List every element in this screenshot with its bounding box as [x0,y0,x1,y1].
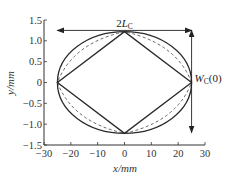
x-tick-label: 20 [173,148,184,159]
y-tick-label: −0.5 [23,98,42,109]
x-tick-label: −20 [63,148,79,159]
x-tick-label: 0 [122,148,127,159]
y-axis-label: y/mm [4,71,16,96]
y-tick-label: −1.5 [23,140,42,151]
annotation-wc0: WC(0) [195,72,222,86]
y-tick-label: 0 [37,77,42,88]
x-axis-label: x/mm [112,162,137,174]
chart: −30−20−1001020301.51.00.50−0.5−1.0−1.5 2… [0,0,230,177]
y-tick-label: 0.5 [29,56,42,67]
ellipse-curve [57,32,191,134]
y-tick-label: 1.0 [29,35,42,46]
y-tick-label: −1.0 [23,119,42,130]
plot-area [57,32,191,134]
annotation-2lc: 2LC [116,17,133,31]
y-tick-label: 1.5 [29,15,42,26]
axes: −30−20−1001020301.51.00.50−0.5−1.0−1.5 [23,15,210,160]
x-tick-label: 30 [200,148,211,159]
x-tick-label: 10 [146,148,157,159]
x-tick-label: −10 [89,148,105,159]
